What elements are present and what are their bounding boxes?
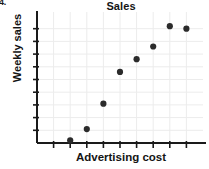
gridlines — [37, 12, 203, 143]
data-point — [117, 69, 123, 75]
data-point — [150, 43, 156, 49]
data-point — [84, 126, 90, 132]
data-point — [183, 26, 189, 32]
data-point — [67, 137, 73, 143]
data-point — [100, 101, 106, 107]
plot-canvas — [0, 0, 209, 169]
axis-lines — [37, 11, 206, 143]
scatter-plot-figure: 4. Sales Weekly sales Advertising cost — [0, 0, 209, 169]
data-point — [167, 23, 173, 29]
data-point — [134, 56, 140, 62]
